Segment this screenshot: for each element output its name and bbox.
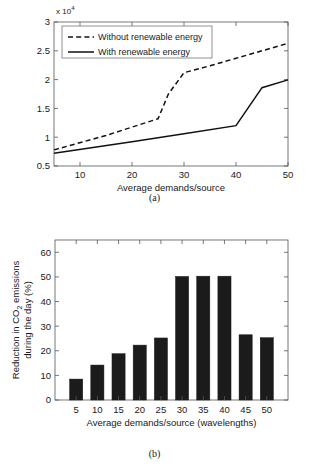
y-tick-label: 2.5 [37,45,50,56]
y-tick-label: 60 [40,247,51,258]
y-tick-label: 40 [40,296,51,307]
x-tick-label: 30 [177,404,188,415]
figure-b-bar-chart: 01020304050605101520253035404550Average … [0,218,309,466]
y-axis-label-line2: during the day (%) [22,281,33,359]
bar [176,276,189,400]
legend-label: With renewable energy [98,47,191,57]
x-tick-label: 25 [156,404,167,415]
y-axis-multiplier: x 104 [56,5,75,16]
x-tick-label: 20 [127,169,138,180]
y-tick-label: 0.5 [37,160,50,171]
figure-b-caption: (b) [0,448,309,459]
x-axis-label: Average demands/source (wavelengths) [87,417,257,428]
figure-a-line-chart: 0.511.522.531020304050x 104Average deman… [0,0,309,210]
y-tick-label: 10 [40,370,51,381]
y-tick-label: 1.5 [37,103,50,114]
y-tick-label: 1 [45,132,50,143]
legend-label: Without renewable energy [98,32,203,42]
x-tick-label: 10 [75,169,86,180]
x-tick-label: 10 [92,404,103,415]
figure-a-caption: (a) [0,192,309,203]
x-tick-label: 50 [283,169,294,180]
x-tick-label: 20 [134,404,145,415]
x-tick-label: 45 [240,404,251,415]
bar [154,338,167,400]
y-tick-label: 20 [40,345,51,356]
x-tick-label: 40 [219,404,230,415]
bar [197,276,210,400]
x-tick-label: 35 [198,404,209,415]
y-tick-label: 30 [40,321,51,332]
plot-frame [55,240,288,400]
bar [218,276,231,400]
bar [260,338,273,400]
bar [133,345,146,400]
x-tick-label: 50 [262,404,273,415]
x-tick-label: 15 [113,404,124,415]
bar [239,335,252,400]
y-tick-label: 0 [46,394,51,405]
x-tick-label: 30 [179,169,190,180]
bar [91,365,104,400]
bar [112,354,125,400]
figure-a-svg: 0.511.522.531020304050x 104Average deman… [0,0,309,210]
y-tick-label: 50 [40,271,51,282]
series-dashed [54,43,288,150]
x-tick-label: 40 [231,169,242,180]
y-tick-label: 2 [45,74,50,85]
y-tick-label: 3 [45,16,50,27]
x-tick-label: 5 [74,404,79,415]
figure-b-svg: 01020304050605101520253035404550Average … [0,218,309,466]
